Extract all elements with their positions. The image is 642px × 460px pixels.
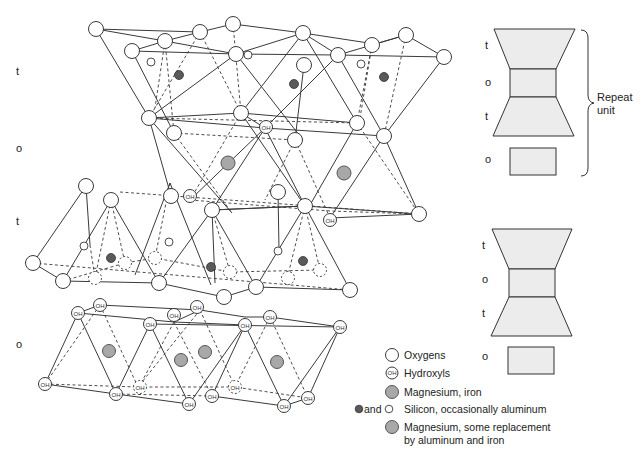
- legend-item-oxygens: Oxygens: [386, 349, 446, 362]
- svg-text:Magnesium, iron: Magnesium, iron: [404, 386, 482, 398]
- schematic-repeat-unit: t o t o Repeat unit: [485, 29, 632, 176]
- oxygen-atoms: [26, 17, 452, 305]
- svg-text:by aluminum and iron: by aluminum and iron: [404, 434, 505, 446]
- svg-text:OH: OH: [304, 396, 313, 402]
- svg-text:t: t: [482, 307, 485, 319]
- svg-text:OH: OH: [266, 315, 275, 321]
- silicon-dark-symbol-icon: [355, 405, 363, 413]
- svg-text:OH: OH: [185, 402, 194, 408]
- magnesium-replacement-symbol-icon: [386, 421, 399, 434]
- repeat-unit-label-2: unit: [597, 104, 615, 116]
- legend-item-hydroxyls: OH Hydroxyls: [386, 367, 450, 379]
- svg-text:Silicon, occasionally aluminum: Silicon, occasionally aluminum: [404, 403, 547, 415]
- svg-text:t: t: [482, 239, 485, 251]
- layer-label-o-upper: o: [16, 142, 22, 154]
- svg-text:Magnesium, some replacement: Magnesium, some replacement: [404, 421, 551, 433]
- svg-text:OH: OH: [336, 325, 345, 331]
- svg-text:OH: OH: [388, 370, 397, 376]
- magnesium-iron-symbol-icon: [386, 386, 399, 399]
- layer-label-o-lower: o: [16, 338, 22, 350]
- layer-label-t-lower: t: [16, 215, 19, 227]
- svg-text:OH: OH: [231, 385, 240, 391]
- crystal-structure-diagram: .ln { stroke:#3a3a3a; stroke-width:1; fi…: [0, 0, 642, 460]
- svg-text:OH: OH: [186, 194, 195, 200]
- hydroxyl-atoms: OH OH OH OH OH OH OH OH OH OH OH OH OH O…: [39, 121, 347, 413]
- legend-item-silicon: and Silicon, occasionally aluminum: [355, 403, 546, 415]
- svg-text:OH: OH: [96, 303, 105, 309]
- svg-text:OH: OH: [170, 313, 179, 319]
- legend-item-magnesium-replacement: Magnesium, some replacement by aluminum …: [386, 421, 551, 447]
- svg-text:OH: OH: [241, 323, 250, 329]
- svg-text:Hydroxyls: Hydroxyls: [404, 367, 450, 379]
- svg-text:Oxygens: Oxygens: [404, 349, 445, 361]
- svg-text:OH: OH: [208, 394, 217, 400]
- svg-text:and: and: [364, 403, 382, 415]
- oxygen-symbol-icon: [386, 349, 399, 362]
- repeat-unit-label-1: Repeat: [597, 91, 632, 103]
- layer-labels: t o t o: [16, 65, 22, 350]
- svg-text:OH: OH: [146, 322, 155, 328]
- svg-text:t: t: [485, 39, 488, 51]
- repeat-unit-brace: [581, 30, 594, 176]
- svg-text:o: o: [485, 76, 491, 88]
- svg-text:o: o: [485, 153, 491, 165]
- svg-text:OH: OH: [136, 385, 145, 391]
- svg-text:t: t: [485, 110, 488, 122]
- legend-item-magnesium-iron: Magnesium, iron: [386, 386, 482, 399]
- svg-text:OH: OH: [326, 218, 335, 224]
- svg-text:OH: OH: [280, 404, 289, 410]
- svg-text:o: o: [482, 273, 488, 285]
- lower-octahedral-layer: [45, 305, 340, 406]
- layer-label-t-upper: t: [16, 65, 19, 77]
- svg-text:OH: OH: [41, 382, 50, 388]
- svg-text:OH: OH: [193, 305, 202, 311]
- svg-text:OH: OH: [112, 392, 121, 398]
- svg-text:OH: OH: [262, 125, 271, 131]
- silicon-light-symbol-icon: [385, 405, 393, 413]
- svg-text:o: o: [482, 350, 488, 362]
- schematic-lower: t o t o: [482, 229, 572, 374]
- svg-text:OH: OH: [74, 311, 83, 317]
